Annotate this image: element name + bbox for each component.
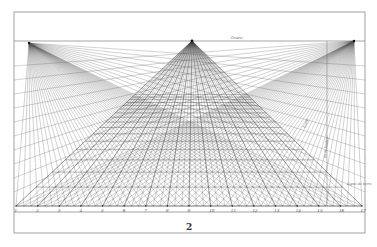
baseline-label: 17 bbox=[361, 208, 367, 213]
left-ray bbox=[29, 43, 247, 206]
center-ray bbox=[192, 41, 348, 206]
baseline-point bbox=[102, 205, 103, 206]
depth-line bbox=[192, 41, 319, 206]
baseline-point bbox=[253, 205, 254, 206]
right-vanishing-point bbox=[353, 40, 355, 42]
ground-line-label: Ligne de terre bbox=[346, 182, 372, 186]
left-ray bbox=[16, 43, 29, 206]
baseline-label: 6 bbox=[123, 208, 126, 213]
center-vanishing-point bbox=[191, 40, 194, 43]
baseline-label: 9 bbox=[188, 208, 191, 213]
baseline-point bbox=[123, 205, 124, 206]
horizon-label: Orizon bbox=[231, 36, 243, 40]
baseline-point bbox=[275, 205, 276, 206]
baseline-point bbox=[59, 205, 60, 206]
baseline-point bbox=[210, 205, 211, 206]
center-ray bbox=[192, 41, 283, 206]
baseline-point bbox=[80, 205, 81, 206]
center-ray bbox=[192, 41, 247, 206]
baseline-label: 16 bbox=[339, 208, 345, 213]
perspective-diagram: Orizon Ligne de la hauteur Ligne de terr… bbox=[0, 0, 377, 247]
baseline-label: 8 bbox=[166, 208, 169, 213]
vertical-label-2: de la hauteur bbox=[323, 134, 329, 158]
center-ray bbox=[192, 41, 225, 206]
perspective-plate: Orizon Ligne de la hauteur Ligne de terr… bbox=[0, 0, 377, 247]
depth-line bbox=[124, 41, 192, 206]
baseline-label: 15 bbox=[317, 208, 323, 213]
left-ray bbox=[29, 43, 268, 206]
depth-line bbox=[192, 41, 276, 206]
baseline-label: 13 bbox=[274, 208, 280, 213]
depth-line bbox=[192, 41, 340, 206]
baseline-point bbox=[37, 205, 38, 206]
baseline-point bbox=[340, 205, 341, 206]
baseline-label: 12 bbox=[252, 208, 258, 213]
baseline-label: 5 bbox=[101, 208, 104, 213]
figure-number: 2 bbox=[186, 222, 192, 232]
baseline-label: 14 bbox=[296, 208, 302, 213]
right-side-ray bbox=[14, 41, 354, 136]
baseline-point bbox=[145, 205, 146, 206]
baseline-label: 11 bbox=[231, 208, 236, 213]
baseline-label: 1 bbox=[15, 208, 18, 213]
baseline-label: 2 bbox=[35, 208, 39, 213]
center-ray bbox=[192, 41, 304, 206]
left-ray bbox=[23, 43, 29, 206]
baseline-point bbox=[167, 205, 168, 206]
left-ray bbox=[29, 43, 146, 206]
baseline-point bbox=[15, 205, 16, 206]
baseline-point bbox=[232, 205, 233, 206]
left-ray bbox=[29, 43, 95, 206]
baseline-label: 7 bbox=[144, 208, 147, 213]
left-vanishing-point bbox=[28, 42, 30, 44]
baseline-point bbox=[296, 205, 297, 206]
baseline-label: 3 bbox=[58, 208, 61, 213]
baseline-point bbox=[188, 205, 189, 206]
baseline-label: 4 bbox=[78, 208, 82, 213]
baseline-point bbox=[318, 205, 319, 206]
baseline-point bbox=[361, 205, 362, 206]
baseline-label: 10 bbox=[209, 208, 215, 213]
